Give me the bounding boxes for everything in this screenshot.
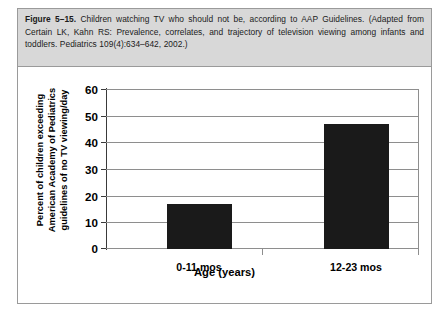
y-axis-title: Percent of children exceeding American A… (26, 75, 78, 245)
x-tick-middle (262, 249, 263, 255)
figure-caption-text: Figure 5–15. Children watching TV who sh… (25, 13, 424, 51)
y-axis-title-line-2: American Academy of Pediatrics (46, 88, 58, 232)
y-tick-label-60: 60 (85, 83, 98, 96)
y-tick-10 (101, 222, 106, 223)
gridline-60: 60 (106, 89, 419, 90)
y-tick-50 (101, 116, 106, 117)
chart-area: Percent of children exceeding American A… (18, 68, 431, 303)
x-tick-end (418, 249, 419, 255)
y-tick-label-0: 0 (92, 242, 98, 255)
x-axis-title: Age (years) (18, 266, 431, 278)
y-tick-label-50: 50 (85, 109, 98, 122)
figure-caption-body: Children watching TV who should not be, … (25, 14, 424, 49)
y-tick-label-20: 20 (85, 189, 98, 202)
y-tick-20 (101, 196, 106, 197)
plot-area: 60 50 40 30 20 10 (106, 89, 419, 249)
y-tick-60 (101, 89, 106, 90)
gridline-50: 50 (106, 116, 419, 117)
bar-12-23-mos (324, 124, 389, 249)
y-tick-40 (101, 142, 106, 143)
figure-number: Figure 5–15. (25, 14, 76, 24)
y-tick-label-40: 40 (85, 136, 98, 149)
y-tick-label-10: 10 (85, 216, 98, 229)
figure-container: Figure 5–15. Children watching TV who sh… (17, 8, 432, 304)
y-tick-30 (101, 169, 106, 170)
y-tick-label-30: 30 (85, 163, 98, 176)
y-axis-title-line-1: Percent of children exceeding (34, 94, 46, 226)
bar-0-11-mos (167, 204, 232, 249)
y-tick-0 (101, 248, 106, 249)
figure-caption-box: Figure 5–15. Children watching TV who sh… (18, 9, 431, 67)
y-axis-title-line-3: guidelines of no TV viewing/day (58, 89, 70, 230)
